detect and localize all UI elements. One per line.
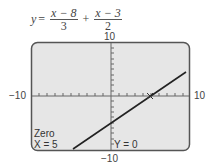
x-readout: X = 5 [34, 139, 58, 150]
y-readout: Y = 0 [114, 139, 137, 150]
graph-screen [0, 0, 211, 166]
calc-label: Zero [34, 128, 55, 139]
